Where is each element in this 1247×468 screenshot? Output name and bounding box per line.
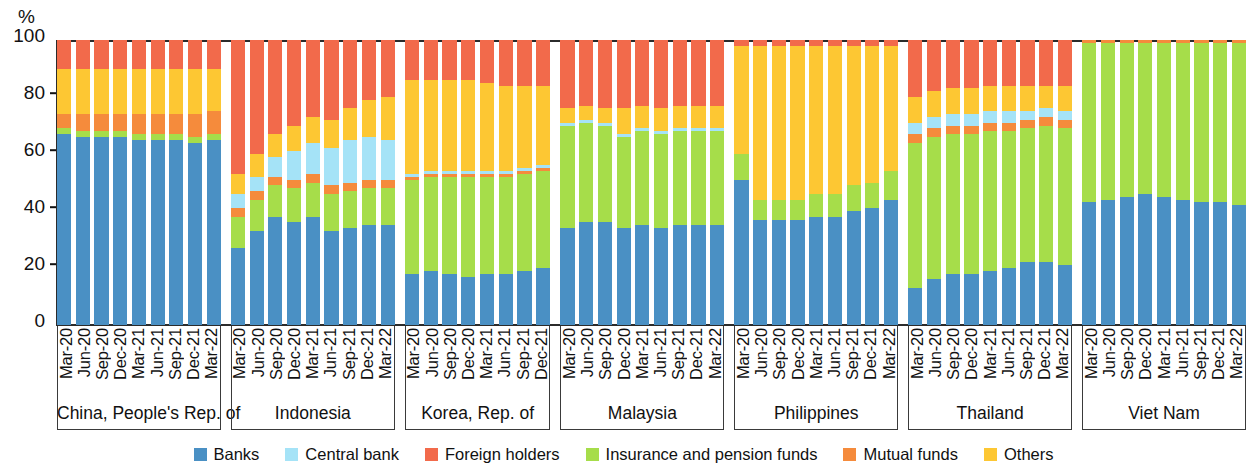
bar-segment <box>151 40 165 69</box>
stacked-bar[interactable] <box>772 40 786 325</box>
stacked-bar[interactable] <box>1039 40 1053 325</box>
stacked-bar[interactable] <box>188 40 202 325</box>
stacked-bar[interactable] <box>710 40 724 325</box>
stacked-bar[interactable] <box>480 40 494 325</box>
x-axis-tick: Jun-21 <box>322 328 340 398</box>
stacked-bar[interactable] <box>734 40 748 325</box>
bar-segment <box>579 40 593 106</box>
stacked-bar[interactable] <box>324 40 338 325</box>
stacked-bar[interactable] <box>809 40 823 325</box>
legend-item[interactable]: Foreign holders <box>425 445 560 464</box>
stacked-bar[interactable] <box>76 40 90 325</box>
bar-segment <box>673 40 687 106</box>
bar-segment <box>76 137 90 325</box>
bar-segment <box>673 106 687 129</box>
stacked-bar[interactable] <box>598 40 612 325</box>
x-axis-panel: Mar-20Jun-20Sep-20Dec-20Mar-21Jun-21Sep-… <box>1082 326 1246 430</box>
stacked-bar[interactable] <box>169 40 183 325</box>
stacked-bar[interactable] <box>151 40 165 325</box>
stacked-bar[interactable] <box>250 40 264 325</box>
stacked-bar[interactable] <box>207 40 221 325</box>
legend-item[interactable]: Insurance and pension funds <box>586 445 818 464</box>
stacked-bar[interactable] <box>1020 40 1034 325</box>
stacked-bar[interactable] <box>983 40 997 325</box>
x-axis-tick-list: Mar-20Jun-20Sep-20Dec-20Mar-21Jun-21Sep-… <box>908 328 1072 398</box>
legend-item[interactable]: Others <box>984 445 1054 464</box>
stacked-bar[interactable] <box>536 40 550 325</box>
stacked-bar[interactable] <box>517 40 531 325</box>
bar-segment <box>76 114 90 131</box>
bar-segment <box>772 46 786 200</box>
stacked-bar[interactable] <box>1101 40 1115 325</box>
x-axis-tick-label: Dec-20 <box>789 328 808 380</box>
x-axis-tick: Dec-21 <box>1210 328 1228 398</box>
stacked-bar[interactable] <box>461 40 475 325</box>
stacked-bar[interactable] <box>113 40 127 325</box>
stacked-bar[interactable] <box>231 40 245 325</box>
stacked-bar[interactable] <box>927 40 941 325</box>
stacked-bar[interactable] <box>654 40 668 325</box>
stacked-bar[interactable] <box>1157 40 1171 325</box>
bar-segment <box>1002 123 1016 132</box>
stacked-bar[interactable] <box>424 40 438 325</box>
stacked-bar[interactable] <box>362 40 376 325</box>
stacked-bar[interactable] <box>1176 40 1190 325</box>
x-axis-tick-label: Jun-20 <box>926 328 945 377</box>
stacked-bar[interactable] <box>884 40 898 325</box>
stacked-bar[interactable] <box>865 40 879 325</box>
chart-panel <box>1082 40 1246 325</box>
stacked-bar[interactable] <box>1082 40 1096 325</box>
stacked-bar[interactable] <box>1213 40 1227 325</box>
y-axis-tick-label: 0 <box>34 310 45 332</box>
x-axis-tick: Dec-21 <box>358 328 376 398</box>
bar-segment <box>1020 40 1034 86</box>
bar-segment <box>151 69 165 115</box>
bar-segment <box>250 200 264 231</box>
stacked-bar[interactable] <box>946 40 960 325</box>
bar-group <box>57 40 221 325</box>
legend-item[interactable]: Banks <box>194 445 260 464</box>
stacked-bar[interactable] <box>753 40 767 325</box>
stacked-bar[interactable] <box>964 40 978 325</box>
stacked-bar[interactable] <box>306 40 320 325</box>
x-axis-tick: Dec-21 <box>532 328 550 398</box>
stacked-bar[interactable] <box>1058 40 1072 325</box>
stacked-bar[interactable] <box>287 40 301 325</box>
stacked-bar[interactable] <box>499 40 513 325</box>
x-axis-tick-label: Dec-21 <box>184 328 203 380</box>
stacked-bar[interactable] <box>579 40 593 325</box>
bar-segment <box>753 220 767 325</box>
stacked-bar[interactable] <box>691 40 705 325</box>
y-axis-tick-label: 40 <box>24 196 45 218</box>
stacked-bar[interactable] <box>847 40 861 325</box>
stacked-bar[interactable] <box>1194 40 1208 325</box>
stacked-bar[interactable] <box>1232 40 1246 325</box>
stacked-bar[interactable] <box>381 40 395 325</box>
stacked-bar[interactable] <box>405 40 419 325</box>
stacked-bar[interactable] <box>57 40 71 325</box>
stacked-bar[interactable] <box>442 40 456 325</box>
stacked-bar[interactable] <box>268 40 282 325</box>
stacked-bar[interactable] <box>1120 40 1134 325</box>
stacked-bar[interactable] <box>673 40 687 325</box>
legend-label: Central bank <box>305 445 399 464</box>
stacked-bar[interactable] <box>94 40 108 325</box>
bar-segment <box>560 228 574 325</box>
stacked-bar[interactable] <box>1002 40 1016 325</box>
legend-item[interactable]: Mutual funds <box>843 445 957 464</box>
stacked-bar[interactable] <box>828 40 842 325</box>
stacked-bar[interactable] <box>560 40 574 325</box>
bar-segment <box>908 143 922 288</box>
x-axis-tick-list: Mar-20Jun-20Sep-20Dec-20Mar-21Jun-21Sep-… <box>1082 328 1246 398</box>
stacked-bar[interactable] <box>635 40 649 325</box>
bar-segment <box>113 69 127 115</box>
legend-item[interactable]: Central bank <box>285 445 399 464</box>
x-axis-tick: Mar-20 <box>560 328 578 398</box>
stacked-bar[interactable] <box>1138 40 1152 325</box>
stacked-bar[interactable] <box>132 40 146 325</box>
stacked-bar[interactable] <box>790 40 804 325</box>
stacked-bar[interactable] <box>908 40 922 325</box>
stacked-bar[interactable] <box>343 40 357 325</box>
bar-segment <box>617 108 631 134</box>
stacked-bar[interactable] <box>617 40 631 325</box>
